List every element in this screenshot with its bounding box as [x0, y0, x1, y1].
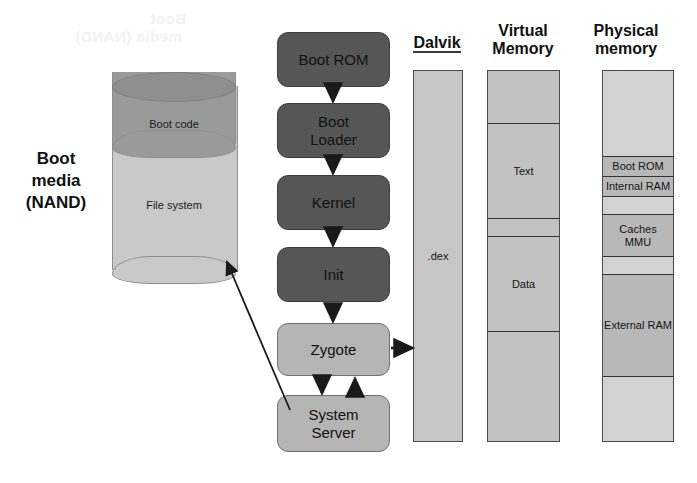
pm-segment-caches-mmu: CachesMMU	[603, 214, 673, 256]
pm-segment-internal-ram: Internal RAM	[603, 176, 673, 196]
boot-media-caption: Boot media (NAND)	[8, 148, 104, 213]
physical-memory-column: Boot ROM Internal RAM CachesMMU External…	[602, 70, 674, 442]
boot-code-label: Boot code	[112, 118, 236, 130]
physical-memory-header-line1: Physical	[578, 22, 674, 40]
dalvik-column-header-label: Dalvik	[413, 34, 460, 53]
virtual-memory-header-line1: Virtual	[484, 22, 562, 40]
pm-segment-external-ram: External RAM	[603, 274, 673, 376]
boot-media-caption-line1: Boot	[8, 148, 104, 170]
scan-artifact-text-top: Boot	[150, 10, 186, 27]
flow-box-zygote-label: Zygote	[311, 341, 357, 358]
vm-segment-blank-bottom	[488, 331, 559, 441]
vm-segment-data-label: Data	[512, 278, 535, 290]
flow-box-kernel-label: Kernel	[312, 194, 355, 211]
vm-segment-blank-top	[488, 71, 559, 123]
pm-segment-blank-bottom	[603, 376, 673, 441]
boot-media-cylinder: Boot code File system	[112, 72, 236, 284]
flow-box-boot-loader-label: BootLoader	[310, 113, 357, 148]
boot-code-band-ellipse	[112, 130, 236, 158]
cylinder-bottom-ellipse	[112, 256, 236, 284]
flow-box-kernel[interactable]: Kernel	[277, 175, 390, 230]
dalvik-column-header: Dalvik	[406, 34, 468, 52]
physical-memory-column-header: Physical memory	[578, 22, 674, 58]
flow-box-system-server-label: SystemServer	[308, 406, 358, 441]
vm-segment-text: Text	[488, 123, 559, 218]
pm-segment-external-ram-label: External RAM	[604, 319, 672, 331]
virtual-memory-column-header: Virtual Memory	[484, 22, 562, 58]
flow-box-zygote[interactable]: Zygote	[277, 323, 390, 376]
pm-segment-gap-2	[603, 256, 673, 274]
pm-segment-caches-mmu-label: CachesMMU	[619, 223, 656, 248]
pm-segment-internal-ram-label: Internal RAM	[606, 180, 670, 192]
flow-box-system-server[interactable]: SystemServer	[277, 395, 390, 452]
scan-artifact-text-bottom: media (NAND)	[75, 28, 182, 45]
virtual-memory-column: Text Data	[487, 70, 560, 442]
boot-media-caption-line2: media	[8, 170, 104, 192]
flow-box-init[interactable]: Init	[277, 247, 390, 302]
dalvik-segment-dex-label: .dex	[428, 250, 449, 262]
flow-box-init-label: Init	[323, 266, 343, 283]
pm-segment-gap-1	[603, 196, 673, 214]
dalvik-segment-dex: .dex	[414, 71, 462, 441]
vm-segment-text-label: Text	[513, 165, 533, 177]
dalvik-column: .dex	[413, 70, 463, 442]
file-system-label: File system	[112, 199, 236, 211]
flow-box-boot-rom[interactable]: Boot ROM	[277, 32, 390, 87]
virtual-memory-header-line2: Memory	[484, 40, 562, 58]
pm-segment-blank-top	[603, 71, 673, 156]
pm-segment-boot-rom-label: Boot ROM	[612, 160, 663, 172]
boot-media-caption-line3: (NAND)	[8, 192, 104, 214]
cylinder-top-ellipse	[112, 72, 236, 102]
flow-box-boot-rom-label: Boot ROM	[298, 51, 368, 68]
diagram-canvas: Boot media (NAND) Boot media (NAND) Boot…	[0, 0, 697, 483]
vm-segment-data: Data	[488, 236, 559, 331]
flow-box-boot-loader[interactable]: BootLoader	[277, 103, 390, 158]
pm-segment-boot-rom: Boot ROM	[603, 156, 673, 176]
vm-segment-gap	[488, 218, 559, 236]
physical-memory-header-line2: memory	[578, 40, 674, 58]
